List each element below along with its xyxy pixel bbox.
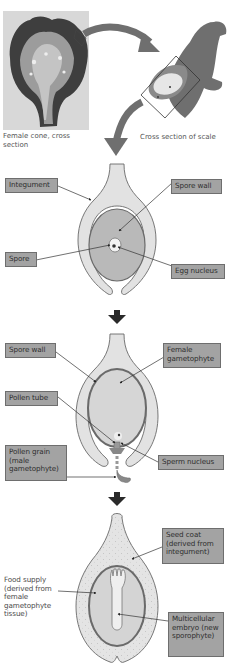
label-integument: Integument (5, 178, 58, 193)
female-cone-photo (3, 11, 89, 130)
down-arrow-icon (108, 310, 126, 324)
female-cone-caption: Female cone, cross section (3, 132, 83, 149)
label-seed-coat: Seed coat (derived from integument) (162, 528, 224, 564)
down-arrow-icon-2 (108, 492, 126, 506)
label-food-supply: Food supply (derived from female gametop… (4, 576, 60, 619)
label-multicellular-embryo: Multicellular embryo (new sporophyte) (168, 612, 224, 657)
curved-arrow-to-ovule-icon (116, 102, 142, 142)
ovule-to-seed-diagram (0, 0, 235, 670)
label-egg-nucleus: Egg nucleus (171, 264, 225, 279)
stage2-ovule (76, 334, 158, 483)
stage3-seed (76, 514, 158, 663)
scale-cross-section (141, 22, 226, 118)
scale-cross-section-caption: Cross section of scale (140, 133, 235, 142)
label-female-gametophyte: Female gametophyte (163, 343, 221, 368)
stage1-ovule (78, 164, 156, 295)
label-pollen-tube: Pollen tube (5, 391, 58, 406)
label-spore: Spore (5, 252, 37, 267)
label-pollen-grain: Pollen grain (male gametophyte) (5, 445, 67, 481)
label-spore-wall: Spore wall (171, 179, 222, 194)
label-spore-wall-2: Spore wall (5, 343, 56, 358)
curved-arrow-to-scale-icon (84, 27, 150, 42)
label-sperm-nucleus: Sperm nucleus (158, 455, 224, 470)
